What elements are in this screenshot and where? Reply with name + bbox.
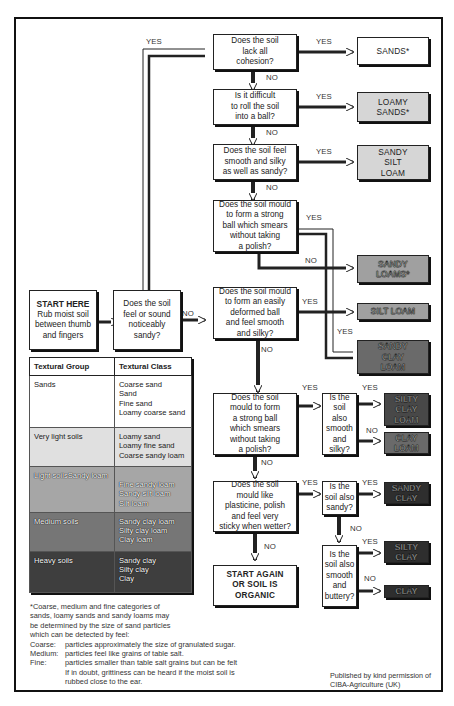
no-label: NO (264, 542, 276, 551)
result-sandy-clay-loam: SANDY CLAY LOAM (357, 340, 429, 374)
question-sandy: Does the soil feel or sound noticeably s… (113, 290, 181, 350)
question-smooth-silky: Is the soil also smooth and silky? (322, 393, 357, 455)
question-easily-deformed: Does the soil mould to form an easily de… (213, 287, 297, 339)
table-header-group: Textural Group (30, 358, 115, 376)
table-row: Medium soils Sandy clay loam Silty clay … (30, 512, 192, 551)
footnote-text: particles feel like grains of table salt… (65, 649, 184, 658)
result-clay: CLAY (384, 585, 429, 598)
result-sandy-loams: SANDY LOAMS* (357, 255, 429, 283)
question-strong-ball-1: Does the soil mould to form a strong bal… (213, 200, 297, 252)
footnote-item: Medium: particles feel like grains of ta… (30, 649, 237, 658)
no-label: NO (266, 183, 278, 192)
footnote-text: particles approximately the size of gran… (65, 640, 236, 649)
no-label: NO (350, 524, 362, 533)
result-sands: SANDS* (357, 37, 429, 65)
no-label: NO (261, 345, 273, 354)
question-cohesion: Does the soil lack all cohesion? (213, 34, 297, 70)
publisher-credit: Published by kind permission of CIBA-Agr… (330, 671, 431, 690)
yes-label: YES (316, 147, 332, 156)
no-label: NO (261, 458, 273, 467)
no-label: NO (305, 256, 317, 265)
yes-label: YES (146, 37, 162, 46)
yes-label: YES (337, 327, 353, 336)
table-row: Heavy soils Sandy clay Silty clay Clay (30, 551, 192, 592)
footnote: *Coarse, medium and fine categories of s… (30, 602, 237, 687)
footnote-intro: *Coarse, medium and fine categories of s… (30, 602, 237, 640)
class-cell: Coarse sand Sand Fine sand Loamy coarse … (114, 376, 191, 428)
group-cell: Sands (30, 376, 115, 428)
result-loamy-sands: LOAMY SANDS* (357, 92, 429, 122)
table-row: Sands Coarse sand Sand Fine sand Loamy c… (30, 376, 192, 428)
footnote-key: Medium: (30, 649, 65, 658)
table-header-class: Textural Class (114, 358, 191, 376)
yes-label: YES (362, 383, 378, 392)
group-cell: Very light soils (30, 428, 115, 467)
question-silky-sandy: Does the soil feel smooth and silky as w… (213, 144, 297, 180)
question-roll: Is it difficult to roll the soil into a … (213, 89, 297, 125)
result-silty-clay-loam: SILTY CLAY LOAM (384, 393, 429, 426)
table-row: Light soilsSandy loam Fine sandy loam Sa… (30, 467, 192, 513)
yes-label: YES (362, 478, 378, 487)
class-cell: Sandy clay loam Silty clay loam Clay loa… (114, 512, 191, 551)
footnote-item: Coarse: particles approximately the size… (30, 640, 237, 649)
footnote-item: Fine: particles smaller than table salt … (30, 658, 237, 686)
no-label: NO (366, 426, 378, 435)
no-label: NO (266, 128, 278, 137)
no-label: NO (266, 73, 278, 82)
footnote-key: Fine: (30, 658, 65, 686)
yes-label: YES (302, 383, 318, 392)
no-label: NO (182, 309, 194, 318)
question-strong-ball-2: Does the soil mould to form a strong bal… (213, 393, 297, 455)
question-smooth-buttery: Is the soil also smooth and buttery? (322, 545, 357, 607)
question-plasticine: Does the soil mould like plasticine, pol… (213, 481, 297, 532)
group-cell: Heavy soils (30, 551, 115, 592)
start-title: START HERE (37, 299, 90, 310)
yes-label: YES (316, 92, 332, 101)
result-silty-clay: SILTY CLAY (384, 541, 429, 563)
footnote-key: Coarse: (30, 640, 65, 649)
yes-label: YES (316, 37, 332, 46)
group-cell: Medium soils (30, 512, 115, 551)
yes-label: YES (306, 213, 322, 222)
result-start-again-organic: START AGAIN OR SOIL IS ORGANIC (213, 565, 297, 606)
question-also-sandy: Is the soil also sandy? (322, 481, 357, 515)
start-box: START HERE Rub moist soil between thumb … (29, 290, 97, 350)
class-cell: Sandy clay Silty clay Clay (114, 551, 191, 592)
yes-label: YES (362, 537, 378, 546)
result-clay-loam: CLAY LOAM (384, 432, 429, 454)
group-cell: Light soilsSandy loam (30, 467, 115, 513)
yes-label: YES (302, 297, 318, 306)
result-sandy-silt-loam: SANDY SILT LOAM (357, 145, 429, 180)
class-cell: Loamy sand Loamy fine sand Coarse sandy … (114, 428, 191, 467)
table-row: Very light soils Loamy sand Loamy fine s… (30, 428, 192, 467)
result-silt-loam: SILT LOAM (357, 303, 429, 320)
no-label: NO (364, 574, 376, 583)
footnote-text: particles smaller than table salt grains… (65, 658, 237, 686)
start-text: Rub moist soil between thumb and fingers (35, 310, 91, 342)
result-sandy-clay: SANDY CLAY (384, 482, 429, 504)
yes-label: YES (302, 478, 318, 487)
class-cell: Fine sandy loam Sandy silt loam Silt loa… (114, 467, 191, 513)
textural-table: Textural Group Textural Class Sands Coar… (29, 357, 192, 593)
